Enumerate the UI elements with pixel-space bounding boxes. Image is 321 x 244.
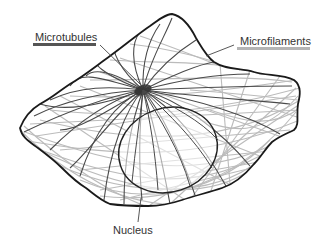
nucleus-label: Nucleus [113,224,153,236]
microtubules-label: Microtubules [35,31,97,43]
microfilaments-legend-bar [237,47,310,50]
microfilaments-label: Microfilaments [240,35,311,47]
microfilaments-leader-line [206,45,234,56]
nucleus-leader-line [138,198,141,222]
cell-diagram: Microtubules Microfilaments Nucleus [0,0,321,244]
microtubules-legend-bar [33,43,96,46]
